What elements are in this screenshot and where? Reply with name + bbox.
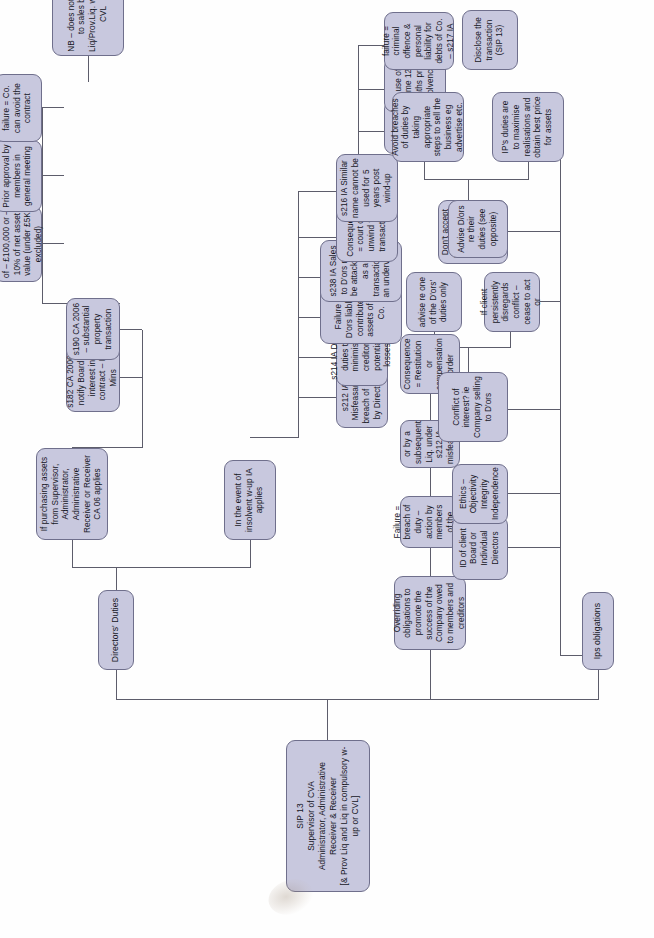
avoid-breaches-text: Avoid breaches of duties by taking appro… [391,96,466,158]
node-s217-criminal-offence[interactable]: failure = criminal offence & personal li… [384,12,454,70]
node-avoid-breaches[interactable]: Avoid breaches of duties by taking appro… [392,92,464,162]
id-of-client-text: ID of client Board or Individual Directo… [459,520,502,576]
node-id-of-client[interactable]: ID of client Board or Individual Directo… [452,516,508,580]
node-advise-one-duty-only[interactable]: advise re one of the D'ors' duties only [406,272,462,332]
advise-dors-text: Advise D/ors re their duties (see opposi… [457,204,500,254]
connector-ins-c3 [298,317,320,318]
node-s190-ca2006[interactable]: s190 CA 2006 – substantial property tran… [66,298,120,360]
connector-purchasing-bus [142,330,143,448]
root-line-1: SIP 13 [295,744,306,888]
connector-s216-bus [358,46,359,168]
node-prior-approval[interactable]: Prior approval by members in general mee… [0,140,42,212]
s190-text: s190 CA 2006 – substantial property tran… [72,302,115,356]
connector-s190-child1 [42,243,64,244]
connector-insolvent-bus [298,238,299,438]
node-failure-breach-of-duty[interactable]: Failure = breach of duty – action by mem… [400,496,460,548]
s190-threshold-text: = exceeding lower of – £100,000 or – 10%… [0,210,45,278]
connector-s216-c1 [358,131,384,132]
connector-dd-to-purchasing [72,540,73,568]
connector-root-stem [327,700,328,740]
connector-ins-c5-link [298,192,299,238]
connector-ins-c6 [298,191,336,192]
connector-ins-c4 [298,277,320,278]
connector-ips-c3 [508,409,560,410]
node-client-disregards-conflict[interactable]: If client persistently disregards confli… [484,272,540,332]
node-advise-dors[interactable]: Advise D/ors re their duties (see opposi… [448,200,508,258]
ip-duties-text: IP's duties are to maximise realisations… [501,96,554,158]
failure-avoid-contract-text: failure = Co. can avoid the contract [2,78,34,138]
connector-conflict-c2 [510,332,511,348]
node-ip-duties-maximise[interactable]: IP's duties are to maximise realisations… [492,92,564,162]
root-line-3: Administrator, Administrative Receiver &… [317,744,339,888]
advise-one-duty-text: advise re one of the D'ors' duties only [418,276,450,328]
connector-ips-bus [560,126,561,656]
connector-dd-out [116,568,117,590]
node-failure-avoid-contract[interactable]: failure = Co. can avoid the contract [0,74,42,142]
client-disregards-text: If client persistently disregards confli… [480,276,544,328]
conflict-of-interest-text: Conflict of interest? ie Company selling… [452,376,495,438]
connector-insolvent-riser [250,437,298,438]
connector-ips-c1 [508,547,560,548]
connector-subsequent-to-consequence [430,394,431,420]
connector-advise-bus [424,179,528,180]
node-purchasing-assets[interactable]: If purchasing assets from Supervisor, Ad… [36,448,108,540]
overriding-obligations-text: Overriding obligations to promote the su… [393,580,468,646]
disclose-transaction-text: Disclose the transaction (SIP 13) [474,14,506,66]
node-insolvent-wup[interactable]: In the event of insolvent w-up IA applie… [224,460,276,540]
connector-to-ips-obligations [598,670,599,700]
node-conflict-of-interest[interactable]: Conflict of interest? ie Company selling… [438,372,508,442]
node-disclose-transaction[interactable]: Disclose the transaction (SIP 13) [462,10,518,70]
nb-text: NB – does not apply to sales by Liq/Prov… [67,0,110,52]
connector-ins-c5 [298,237,336,238]
branch-label-directors-duties[interactable]: Directors' Duties [98,590,134,670]
connector-dd-bus [72,567,250,568]
connector-ins-c1 [298,397,336,398]
connector-overriding-to-failure [430,548,431,576]
connector-to-directors-duties [116,670,117,700]
root-line-4: [& Prov Liq and Liq in compulsory w-up o… [339,744,361,888]
s216-text: s216 IA Similar name cannot be used for … [340,158,393,218]
node-s216-similar-name[interactable]: s216 IA Similar name cannot be used for … [336,154,398,222]
connector-conflict-out [468,348,469,372]
connector-main-spine [116,699,598,700]
connector-s216-c2 [358,89,384,90]
s217-text: failure = criminal offence & personal li… [382,16,457,66]
node-nb-does-not-apply[interactable]: NB – does not apply to sales by Liq/Prov… [52,0,124,56]
connector-to-s190 [120,329,142,330]
connector-ips-c2 [508,493,560,494]
root-line-2: Supervisor of CVA [306,744,317,888]
connector-dd-to-insolvent [250,540,251,568]
connector-failure-to-subsequent [430,468,431,496]
node-overriding-obligations[interactable]: Overriding obligations to promote the su… [394,576,466,650]
connector-s190-child2 [42,175,64,176]
connector-ips-c5 [508,231,560,232]
node-s190-threshold[interactable]: = exceeding lower of – £100,000 or – 10%… [0,206,42,282]
ips-obligations-text: Ips obligations [592,596,603,666]
connector-advise-out [468,180,469,200]
connector-advise-c2 [528,162,529,180]
connector-s216-c3 [358,45,384,46]
ethics-text: Ethics – Objectivity Integrity Independe… [459,468,502,520]
purchasing-assets-text: If purchasing assets from Supervisor, Ad… [40,452,104,536]
branch-label-ips-obligations[interactable]: Ips obligations [582,592,614,670]
directors-duties-text: Directors' Duties [110,594,121,666]
connector-nb [88,56,89,82]
diagram-canvas: SIP 13 Supervisor of CVA Administrator, … [0,0,654,938]
node-ethics[interactable]: Ethics – Objectivity Integrity Independe… [452,464,508,524]
connector-to-overriding [430,650,431,700]
connector-to-s182 [120,377,142,378]
connector-advise-c1 [424,162,425,180]
connector-s190-child3 [42,107,64,108]
insolvent-wup-text: In the event of insolvent w-up IA applie… [234,464,266,536]
prior-approval-text: Prior approval by members in general mee… [2,144,34,208]
root-node-sip13[interactable]: SIP 13 Supervisor of CVA Administrator, … [286,740,370,892]
